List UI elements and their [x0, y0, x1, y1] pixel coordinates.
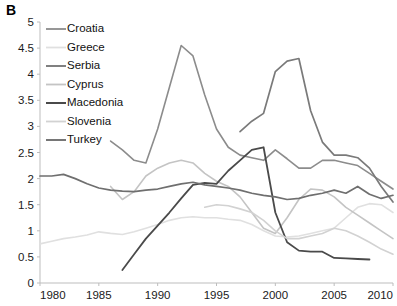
y-tick-label: 2 — [28, 173, 34, 185]
x-tick-label: 1995 — [204, 289, 230, 301]
y-tick-label: 5 — [28, 16, 34, 28]
legend-label-cyprus: Cyprus — [67, 78, 104, 90]
y-tick-label: 3 — [28, 120, 34, 132]
chart-legend: CroatiaGreeceSerbiaCyprusMacedoniaSloven… — [46, 22, 124, 145]
legend-label-slovenia: Slovenia — [67, 115, 112, 127]
y-tick-label: 4.5 — [18, 42, 34, 54]
legend-label-serbia: Serbia — [67, 59, 101, 71]
y-tick-label: 3.5 — [18, 94, 34, 106]
series-line-macedonia — [122, 147, 369, 270]
x-tick-label: 1985 — [86, 289, 112, 301]
series-line-cyprus — [111, 160, 393, 238]
y-tick-label: 0.5 — [18, 251, 34, 263]
legend-label-turkey: Turkey — [67, 133, 102, 145]
y-tick-label: 0 — [28, 277, 34, 289]
series-line-turkey — [40, 174, 393, 199]
y-tick-label: 2.5 — [18, 147, 34, 159]
y-tick-label: 1 — [28, 225, 34, 237]
line-chart-svg: 00.511.522.533.544.55 198019851990199520… — [0, 0, 397, 306]
chart-figure: B 00.511.522.533.544.55 1980198519901995… — [0, 0, 397, 306]
series-line-serbia — [240, 59, 393, 203]
x-tick-label: 1980 — [40, 289, 66, 301]
y-tick-label: 1.5 — [18, 199, 34, 211]
series-line-slovenia — [205, 205, 393, 255]
x-tick-label: 2000 — [263, 289, 289, 301]
y-tick-label: 4 — [28, 68, 35, 80]
legend-label-macedonia: Macedonia — [67, 96, 124, 108]
x-tick-label: 1990 — [145, 289, 171, 301]
y-axis: 00.511.522.533.544.55 — [18, 16, 40, 289]
x-axis: 1980198519901995200020052010 — [40, 283, 393, 301]
legend-label-greece: Greece — [67, 41, 105, 53]
x-tick-label: 2005 — [321, 289, 347, 301]
series-line-croatia — [111, 45, 393, 189]
x-tick-label: 2010 — [367, 289, 393, 301]
legend-label-croatia: Croatia — [67, 22, 105, 34]
series-line-greece — [40, 204, 393, 244]
